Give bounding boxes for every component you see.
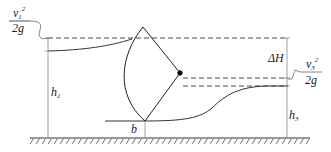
v1-leader xyxy=(30,21,48,39)
svg-text:2g: 2g xyxy=(305,73,317,87)
svg-text:v12: v12 xyxy=(13,5,26,21)
h3-dimension xyxy=(284,38,290,138)
gate-arm-lower xyxy=(145,73,180,121)
downstream-water-surface xyxy=(105,86,288,121)
b-label: b xyxy=(131,122,137,136)
v1-velocity-head-label: v12 2g xyxy=(9,5,30,35)
gate-skin-plate xyxy=(124,27,145,121)
svg-text:v32: v32 xyxy=(306,56,319,72)
gate-pivot-icon xyxy=(178,71,183,76)
h1-label: h1 xyxy=(51,85,61,100)
channel-bed xyxy=(30,138,310,144)
energy-lines xyxy=(48,38,288,86)
h3-label: h3 xyxy=(289,108,299,123)
gate-arm-upper xyxy=(143,27,180,73)
radial-gate xyxy=(124,27,182,121)
delta-h-label: ΔH xyxy=(267,51,285,65)
svg-text:2g: 2g xyxy=(12,21,24,35)
upstream-water-surface xyxy=(48,39,132,51)
v3-velocity-head-label: v32 2g xyxy=(305,56,319,87)
radial-gate-diagram: v12 2g v32 2g h1 h3 ΔH b xyxy=(0,0,331,152)
